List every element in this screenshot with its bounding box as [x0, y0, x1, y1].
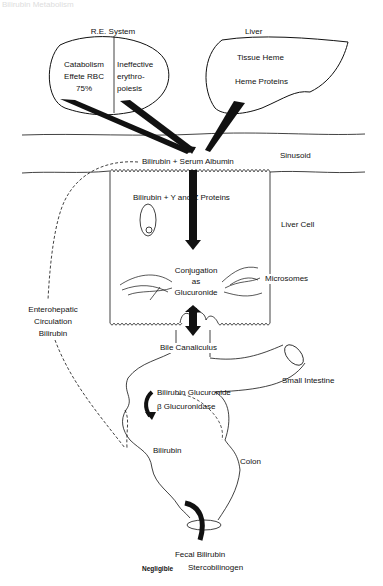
re-ineffective-line2: erythro- — [117, 72, 145, 82]
re-ineffective-line1: Ineffective — [117, 60, 153, 70]
conjugation-line3: Glucuronide — [174, 288, 217, 298]
enterohepatic-line1: Enterohepatic — [28, 305, 77, 315]
microsome-left — [120, 275, 172, 300]
microsome-right — [222, 267, 262, 296]
conjugation-line1: Conjugation — [175, 266, 218, 276]
liver-heme-arrow — [205, 101, 245, 152]
colon-outline-right — [215, 392, 240, 520]
liver-cell-label: Liver Cell — [281, 220, 314, 230]
colon-bilirubin-label: Bilirubin — [153, 446, 181, 456]
liver-outline — [206, 37, 348, 114]
glucuronide-dashed — [178, 394, 223, 440]
conjugation-line2: as — [192, 277, 200, 287]
re-catabolism-arrow — [60, 99, 192, 154]
colon-dashed-inner — [125, 410, 128, 448]
central-arrow-shaft — [189, 170, 197, 242]
liver-cell-bottom-microvilli-right — [218, 323, 270, 325]
canaliculus-arrow-up — [185, 305, 201, 312]
enterohepatic-dashed-lower — [55, 340, 125, 448]
glucuronide-label: Bilirubin Glucuronide — [157, 388, 231, 398]
liver-heme-proteins: Heme Proteins — [235, 77, 288, 87]
re-catabolism-line1: Catabolism — [64, 60, 104, 70]
faded-header: Bilirubin Metabolism — [2, 0, 74, 10]
fecal-bilirubin-label: Fecal Bilirubin — [175, 550, 225, 560]
fecal-arrow — [185, 503, 202, 540]
sinusoid-label: Sinusoid — [280, 151, 311, 161]
vesicle-nucleus — [146, 227, 152, 233]
beta-glucuronidase-arrowhead — [145, 412, 156, 420]
sinusoid-lower-line-right — [270, 171, 365, 172]
canaliculus-arrow-head — [185, 326, 201, 336]
serum-albumin-reaction: Bilirubin + Serum Albumin — [142, 157, 234, 167]
canaliculus-wavy-top — [180, 312, 218, 323]
re-system-title: R.E. System — [91, 27, 135, 37]
negligible-label: Negligible — [142, 564, 173, 574]
liver-cell-bottom-microvilli-left — [110, 323, 182, 325]
enterohepatic-line2: Circulation — [34, 317, 72, 327]
sinusoid-lower-line-left — [22, 171, 110, 173]
bilirubin-metabolism-diagram: Bilirubin Metabolism R.E. System Catabol… — [0, 0, 383, 586]
microsomes-label: Microsomes — [264, 274, 309, 284]
re-catabolism-line2: Effete RBC — [64, 72, 104, 82]
small-intestine-upper — [210, 345, 283, 359]
vesicle — [140, 204, 156, 236]
re-ineffective-line3: poiesis — [117, 84, 142, 94]
yz-proteins-reaction: Bilirubin + Y and Z Proteins — [133, 193, 230, 203]
colon-label: Colon — [240, 457, 261, 467]
small-intestine-label: Small Intestine — [282, 376, 334, 386]
enterohepatic-dashed-upper — [48, 162, 138, 300]
re-catabolism-percent: 75% — [76, 84, 92, 94]
enterohepatic-line3: Bilirubin — [39, 329, 67, 339]
liver-tissue-heme: Tissue Heme — [237, 53, 284, 63]
bile-canaliculus-label: Bile Canaliculus — [160, 343, 217, 353]
sinusoid-upper-line — [22, 133, 365, 135]
small-intestine-opening — [281, 341, 307, 368]
beta-glucuronidase-label: β Glucuronidase — [157, 402, 215, 412]
liver-title: Liver — [245, 27, 262, 37]
colon-outline-left — [123, 350, 190, 518]
central-arrow-head — [185, 240, 201, 250]
stercobilinogen-label: Stercobilinogen — [188, 563, 243, 573]
